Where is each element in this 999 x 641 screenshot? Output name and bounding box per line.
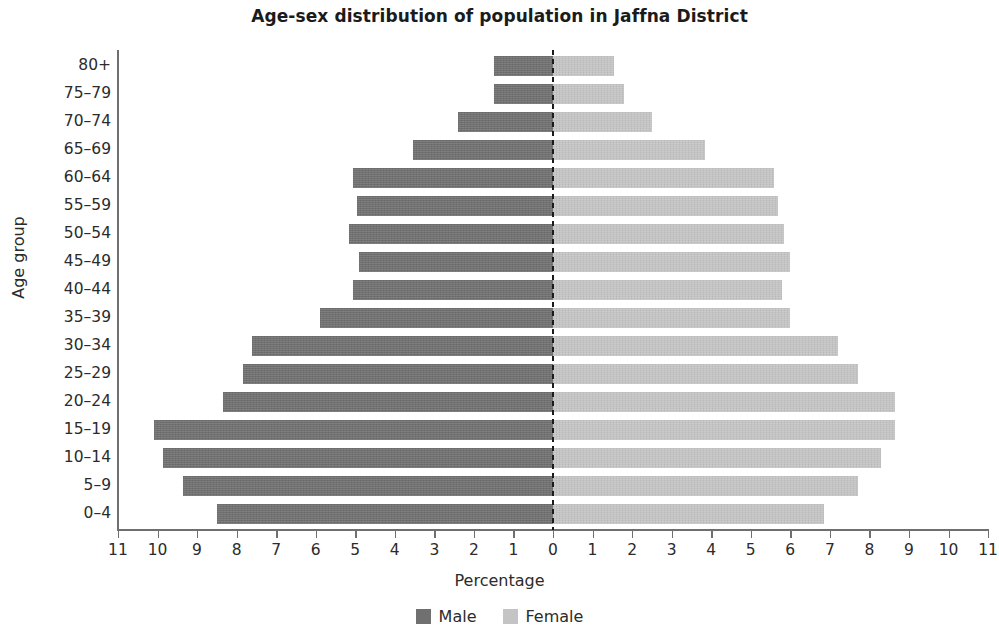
y-tick-label: 30–34: [11, 336, 111, 354]
x-tick-mark: [553, 530, 554, 538]
y-tick-label: 10–14: [11, 448, 111, 466]
bar-female: [553, 364, 858, 384]
x-tick-label: 11: [98, 541, 138, 559]
x-tick-mark: [316, 530, 317, 538]
x-tick-label: 4: [691, 541, 731, 559]
zero-axis-line: [552, 50, 554, 530]
chart-legend: MaleFemale: [0, 607, 999, 626]
bar-male: [320, 308, 553, 328]
x-tick-label: 1: [493, 541, 533, 559]
y-tick-label: 35–39: [11, 308, 111, 326]
y-tick-label: 70–74: [11, 112, 111, 130]
y-tick-label: 65–69: [11, 140, 111, 158]
bar-female: [553, 140, 705, 160]
bar-female: [553, 252, 790, 272]
x-tick-mark: [790, 530, 791, 538]
plot-area: [118, 52, 988, 528]
bar-male: [163, 448, 553, 468]
bar-female: [553, 504, 824, 524]
x-tick-mark: [395, 530, 396, 538]
y-tick-label: 45–49: [11, 252, 111, 270]
bar-male: [353, 168, 553, 188]
chart-title: Age-sex distribution of population in Ja…: [0, 6, 999, 26]
x-tick-label: 2: [612, 541, 652, 559]
bar-female: [553, 336, 838, 356]
x-tick-mark: [276, 530, 277, 538]
x-tick-label: 10: [138, 541, 178, 559]
x-tick-label: 9: [177, 541, 217, 559]
bar-male: [243, 364, 553, 384]
bar-male: [217, 504, 553, 524]
bar-female: [553, 112, 652, 132]
bar-female: [553, 308, 790, 328]
x-tick-label: 0: [533, 541, 573, 559]
x-tick-label: 6: [296, 541, 336, 559]
x-tick-mark: [513, 530, 514, 538]
x-tick-mark: [118, 530, 119, 538]
y-tick-label: 55–59: [11, 196, 111, 214]
x-tick-mark: [197, 530, 198, 538]
x-tick-label: 8: [849, 541, 889, 559]
bar-female: [553, 476, 858, 496]
y-tick-label: 80+: [11, 56, 111, 74]
bar-female: [553, 420, 895, 440]
x-tick-mark: [988, 530, 989, 538]
bar-female: [553, 84, 624, 104]
bar-male: [357, 196, 553, 216]
y-tick-label: 60–64: [11, 168, 111, 186]
x-tick-label: 5: [731, 541, 771, 559]
bar-male: [223, 392, 553, 412]
legend-swatch: [416, 609, 431, 624]
bar-male: [494, 84, 553, 104]
x-tick-mark: [355, 530, 356, 538]
x-tick-mark: [830, 530, 831, 538]
x-tick-mark: [593, 530, 594, 538]
y-tick-label: 75–79: [11, 84, 111, 102]
x-tick-label: 1: [573, 541, 613, 559]
x-tick-label: 7: [256, 541, 296, 559]
y-axis-tick-labels: 80+75–7970–7465–6960–6455–5950–5445–4940…: [8, 52, 111, 528]
bar-male: [359, 252, 553, 272]
bar-female: [553, 280, 782, 300]
bar-female: [553, 448, 881, 468]
legend-label: Female: [526, 607, 584, 626]
y-tick-label: 25–29: [11, 364, 111, 382]
x-tick-label: 7: [810, 541, 850, 559]
x-tick-label: 3: [652, 541, 692, 559]
bar-male: [154, 420, 553, 440]
x-tick-label: 3: [414, 541, 454, 559]
x-tick-mark: [949, 530, 950, 538]
x-tick-label: 8: [217, 541, 257, 559]
bar-female: [553, 392, 895, 412]
population-pyramid-figure: Age-sex distribution of population in Ja…: [0, 0, 999, 641]
bar-female: [553, 168, 774, 188]
legend-label: Male: [439, 607, 477, 626]
x-tick-mark: [434, 530, 435, 538]
x-tick-mark: [751, 530, 752, 538]
legend-entry: Female: [503, 607, 584, 626]
x-tick-mark: [672, 530, 673, 538]
x-axis-title: Percentage: [0, 571, 999, 590]
bar-male: [494, 56, 553, 76]
y-tick-label: 15–19: [11, 420, 111, 438]
x-tick-mark: [237, 530, 238, 538]
y-tick-label: 40–44: [11, 280, 111, 298]
bar-male: [349, 224, 553, 244]
bar-female: [553, 224, 784, 244]
x-tick-mark: [909, 530, 910, 538]
x-tick-label: 11: [968, 541, 999, 559]
x-tick-mark: [474, 530, 475, 538]
x-axis-tick-labels: 111098765432101234567891011: [118, 530, 989, 564]
bar-male: [183, 476, 553, 496]
y-tick-label: 20–24: [11, 392, 111, 410]
x-tick-mark: [869, 530, 870, 538]
legend-swatch: [503, 609, 518, 624]
y-tick-label: 5–9: [11, 476, 111, 494]
bar-male: [252, 336, 553, 356]
bar-male: [413, 140, 553, 160]
y-tick-label: 0–4: [11, 504, 111, 522]
x-tick-label: 2: [454, 541, 494, 559]
x-tick-mark: [158, 530, 159, 538]
bar-female: [553, 56, 614, 76]
x-tick-label: 5: [335, 541, 375, 559]
